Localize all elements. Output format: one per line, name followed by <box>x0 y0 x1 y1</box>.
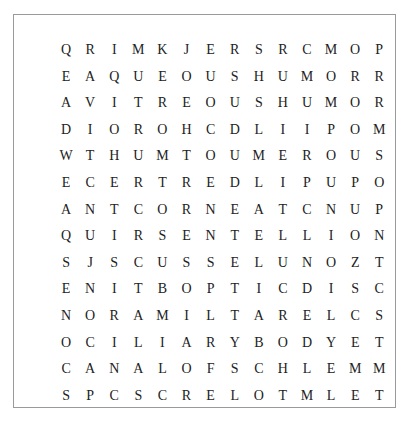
letter-cell[interactable]: U <box>343 197 367 224</box>
letter-cell[interactable]: T <box>78 143 102 170</box>
letter-cell[interactable]: D <box>295 330 319 357</box>
letter-cell[interactable]: C <box>247 356 271 383</box>
letter-cell[interactable]: T <box>367 383 391 410</box>
letter-cell[interactable]: H <box>102 143 126 170</box>
letter-cell[interactable]: I <box>271 170 295 197</box>
letter-cell[interactable]: E <box>295 303 319 330</box>
letter-cell[interactable]: R <box>223 37 247 64</box>
letter-cell[interactable]: I <box>150 330 174 357</box>
letter-cell[interactable]: I <box>78 117 102 144</box>
letter-cell[interactable]: E <box>199 170 223 197</box>
letter-cell[interactable]: O <box>319 64 343 91</box>
letter-cell[interactable]: M <box>295 64 319 91</box>
letter-cell[interactable]: U <box>126 143 150 170</box>
letter-cell[interactable]: L <box>295 356 319 383</box>
letter-cell[interactable]: M <box>319 90 343 117</box>
letter-cell[interactable]: O <box>319 143 343 170</box>
letter-cell[interactable]: L <box>271 223 295 250</box>
letter-cell[interactable]: I <box>271 117 295 144</box>
letter-cell[interactable]: Q <box>102 64 126 91</box>
letter-cell[interactable]: O <box>78 303 102 330</box>
letter-cell[interactable]: T <box>367 330 391 357</box>
letter-cell[interactable]: U <box>319 170 343 197</box>
letter-cell[interactable]: Q <box>54 37 78 64</box>
letter-cell[interactable]: N <box>199 223 223 250</box>
letter-cell[interactable]: U <box>271 64 295 91</box>
letter-cell[interactable]: E <box>223 250 247 277</box>
letter-cell[interactable]: C <box>126 197 150 224</box>
letter-cell[interactable]: A <box>78 64 102 91</box>
letter-cell[interactable]: R <box>126 223 150 250</box>
letter-cell[interactable]: E <box>319 356 343 383</box>
letter-cell[interactable]: I <box>247 276 271 303</box>
letter-cell[interactable]: M <box>343 356 367 383</box>
letter-cell[interactable]: U <box>126 64 150 91</box>
letter-cell[interactable]: A <box>174 330 198 357</box>
letter-cell[interactable]: L <box>199 303 223 330</box>
letter-cell[interactable]: C <box>78 170 102 197</box>
letter-cell[interactable]: O <box>174 356 198 383</box>
letter-cell[interactable]: U <box>199 64 223 91</box>
letter-cell[interactable]: T <box>271 383 295 410</box>
letter-cell[interactable]: E <box>271 143 295 170</box>
letter-cell[interactable]: L <box>247 250 271 277</box>
letter-cell[interactable]: E <box>223 197 247 224</box>
letter-cell[interactable]: S <box>343 276 367 303</box>
letter-cell[interactable]: R <box>271 37 295 64</box>
letter-cell[interactable]: R <box>150 90 174 117</box>
letter-cell[interactable]: R <box>174 197 198 224</box>
letter-cell[interactable]: L <box>247 170 271 197</box>
letter-cell[interactable]: Z <box>343 250 367 277</box>
letter-cell[interactable]: P <box>199 276 223 303</box>
letter-cell[interactable]: N <box>367 223 391 250</box>
letter-cell[interactable]: E <box>174 90 198 117</box>
letter-cell[interactable]: A <box>126 303 150 330</box>
letter-cell[interactable]: B <box>150 276 174 303</box>
letter-cell[interactable]: L <box>295 223 319 250</box>
letter-cell[interactable]: U <box>343 143 367 170</box>
letter-cell[interactable]: O <box>343 117 367 144</box>
letter-cell[interactable]: R <box>126 170 150 197</box>
letter-cell[interactable]: P <box>367 197 391 224</box>
letter-cell[interactable]: N <box>295 250 319 277</box>
letter-cell[interactable]: S <box>199 250 223 277</box>
letter-cell[interactable]: Y <box>319 330 343 357</box>
letter-cell[interactable]: R <box>199 330 223 357</box>
letter-cell[interactable]: C <box>343 303 367 330</box>
letter-cell[interactable]: S <box>247 37 271 64</box>
letter-cell[interactable]: C <box>199 117 223 144</box>
letter-cell[interactable]: E <box>343 383 367 410</box>
letter-cell[interactable]: L <box>319 383 343 410</box>
letter-cell[interactable]: E <box>102 170 126 197</box>
letter-cell[interactable]: O <box>174 276 198 303</box>
letter-cell[interactable]: E <box>150 64 174 91</box>
letter-cell[interactable]: S <box>367 143 391 170</box>
letter-cell[interactable]: R <box>367 64 391 91</box>
letter-cell[interactable]: M <box>367 117 391 144</box>
letter-cell[interactable]: E <box>174 223 198 250</box>
letter-cell[interactable]: T <box>102 197 126 224</box>
letter-cell[interactable]: C <box>78 330 102 357</box>
letter-cell[interactable]: M <box>247 143 271 170</box>
letter-cell[interactable]: N <box>319 197 343 224</box>
letter-cell[interactable]: M <box>319 37 343 64</box>
letter-cell[interactable]: O <box>150 117 174 144</box>
letter-cell[interactable]: Y <box>223 330 247 357</box>
letter-cell[interactable]: I <box>319 276 343 303</box>
letter-cell[interactable]: U <box>271 250 295 277</box>
letter-cell[interactable]: H <box>271 90 295 117</box>
letter-cell[interactable]: F <box>199 356 223 383</box>
letter-cell[interactable]: O <box>247 383 271 410</box>
letter-cell[interactable]: I <box>102 330 126 357</box>
letter-cell[interactable]: C <box>271 276 295 303</box>
letter-cell[interactable]: O <box>343 223 367 250</box>
letter-cell[interactable]: L <box>247 117 271 144</box>
letter-cell[interactable]: L <box>150 356 174 383</box>
letter-cell[interactable]: D <box>223 170 247 197</box>
letter-cell[interactable]: C <box>126 250 150 277</box>
letter-cell[interactable]: M <box>150 303 174 330</box>
letter-cell[interactable]: C <box>295 197 319 224</box>
letter-cell[interactable]: S <box>126 383 150 410</box>
letter-cell[interactable]: A <box>126 356 150 383</box>
letter-cell[interactable]: O <box>199 90 223 117</box>
